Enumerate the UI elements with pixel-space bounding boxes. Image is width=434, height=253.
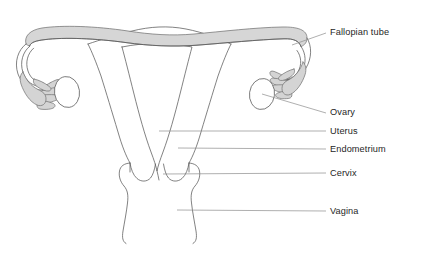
uterus-body-group xyxy=(88,27,231,172)
leader-endometrium xyxy=(178,148,326,149)
cervix-left-wall xyxy=(130,163,156,181)
vagina-left-wall xyxy=(119,163,130,244)
cervical-canal xyxy=(157,171,159,180)
uterus-outer-wall xyxy=(88,44,130,172)
fimbriae-right xyxy=(270,62,306,99)
label-fallopian-tube: Fallopian tube xyxy=(330,27,389,37)
label-vagina: Vagina xyxy=(330,206,359,216)
cervix-right-wall xyxy=(164,163,190,181)
leader-cervix xyxy=(163,173,326,174)
label-ovary: Ovary xyxy=(330,107,355,117)
label-endometrium: Endometrium xyxy=(330,144,386,154)
fallopian-tube-left-curve-inner2 xyxy=(27,48,43,83)
endometrium-group xyxy=(122,44,192,172)
vagina-right-wall xyxy=(189,163,200,244)
leader-vagina xyxy=(177,210,326,211)
label-uterus: Uterus xyxy=(330,126,358,136)
anatomy-diagram: Fallopian tube Ovary Uterus Endometrium … xyxy=(0,0,434,253)
fallopian-tube-band xyxy=(26,26,307,46)
label-cervix: Cervix xyxy=(330,168,357,178)
vagina-group xyxy=(119,163,200,244)
uterus-outer-wall-right xyxy=(189,44,231,172)
cervix-group xyxy=(130,163,189,181)
endometrial-cavity xyxy=(122,44,192,172)
reproductive-system-illustration: Fallopian tube Ovary Uterus Endometrium … xyxy=(0,0,434,253)
labels-group: Fallopian tube Ovary Uterus Endometrium … xyxy=(330,27,389,216)
